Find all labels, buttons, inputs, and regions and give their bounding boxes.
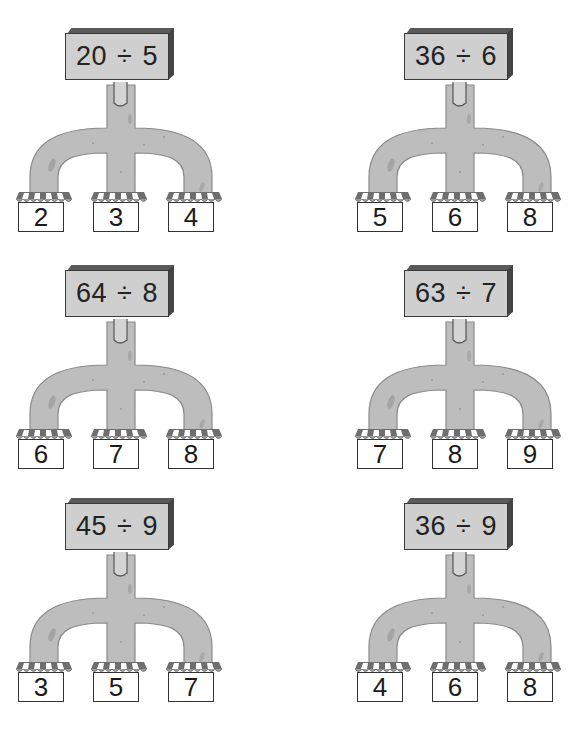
divisor: 6	[481, 41, 497, 72]
answer-option-3[interactable]: 8	[505, 190, 555, 233]
division-expression: 64 ÷ 8	[65, 270, 169, 317]
answer-number[interactable]: 4	[168, 202, 214, 232]
answer-option-3[interactable]: 8	[166, 427, 216, 470]
answer-option-2[interactable]: 3	[91, 190, 141, 233]
answer-option-3[interactable]: 4	[166, 190, 216, 233]
answer-number[interactable]: 3	[93, 202, 139, 232]
division-puzzle-3: 64 ÷ 8 6 7	[14, 264, 254, 479]
answer-number[interactable]: 2	[18, 202, 64, 232]
answer-option-1[interactable]: 5	[355, 190, 405, 233]
dividend: 45	[76, 511, 107, 542]
answer-number[interactable]: 7	[168, 672, 214, 702]
answer-number[interactable]: 6	[432, 202, 478, 232]
answer-option-3[interactable]: 8	[505, 660, 555, 703]
division-expression: 45 ÷ 9	[65, 503, 169, 550]
answer-number[interactable]: 7	[357, 439, 403, 469]
divide-operator-icon: ÷	[456, 278, 471, 309]
divisor: 9	[481, 511, 497, 542]
answer-number[interactable]: 8	[507, 672, 553, 702]
answer-number[interactable]: 8	[507, 202, 553, 232]
division-puzzle-4: 63 ÷ 7 7 8	[353, 264, 582, 479]
division-expression: 20 ÷ 5	[65, 33, 169, 80]
answer-option-1[interactable]: 2	[16, 190, 66, 233]
answer-option-2[interactable]: 8	[430, 427, 480, 470]
answer-option-1[interactable]: 3	[16, 660, 66, 703]
divide-operator-icon: ÷	[456, 41, 471, 72]
dividend: 20	[76, 41, 107, 72]
divisor: 5	[142, 41, 158, 72]
division-puzzle-2: 36 ÷ 6 5 6	[353, 27, 582, 242]
divisor: 8	[142, 278, 158, 309]
dividend: 63	[415, 278, 446, 309]
answer-option-2[interactable]: 6	[430, 660, 480, 703]
division-expression: 36 ÷ 9	[404, 503, 508, 550]
answer-option-3[interactable]: 7	[166, 660, 216, 703]
division-expression: 36 ÷ 6	[404, 33, 508, 80]
dividend: 36	[415, 511, 446, 542]
answer-number[interactable]: 6	[18, 439, 64, 469]
answer-number[interactable]: 5	[93, 672, 139, 702]
answer-number[interactable]: 5	[357, 202, 403, 232]
divisor: 9	[142, 511, 158, 542]
answer-number[interactable]: 8	[168, 439, 214, 469]
answer-number[interactable]: 7	[93, 439, 139, 469]
answer-option-1[interactable]: 4	[355, 660, 405, 703]
dividend: 36	[415, 41, 446, 72]
divisor: 7	[481, 278, 497, 309]
answer-option-1[interactable]: 6	[16, 427, 66, 470]
division-puzzle-6: 36 ÷ 9 4 6	[353, 497, 582, 712]
answer-option-2[interactable]: 7	[91, 427, 141, 470]
divide-operator-icon: ÷	[456, 511, 471, 542]
answer-number[interactable]: 3	[18, 672, 64, 702]
answer-number[interactable]: 8	[432, 439, 478, 469]
answer-option-2[interactable]: 5	[91, 660, 141, 703]
division-puzzle-1: 20 ÷ 5 2 3	[14, 27, 254, 242]
answer-number[interactable]: 4	[357, 672, 403, 702]
divide-operator-icon: ÷	[117, 41, 132, 72]
answer-number[interactable]: 9	[507, 439, 553, 469]
division-puzzle-5: 45 ÷ 9 3 5	[14, 497, 254, 712]
answer-option-3[interactable]: 9	[505, 427, 555, 470]
divide-operator-icon: ÷	[117, 278, 132, 309]
division-expression: 63 ÷ 7	[404, 270, 508, 317]
answer-option-1[interactable]: 7	[355, 427, 405, 470]
answer-number[interactable]: 6	[432, 672, 478, 702]
dividend: 64	[76, 278, 107, 309]
divide-operator-icon: ÷	[117, 511, 132, 542]
answer-option-2[interactable]: 6	[430, 190, 480, 233]
